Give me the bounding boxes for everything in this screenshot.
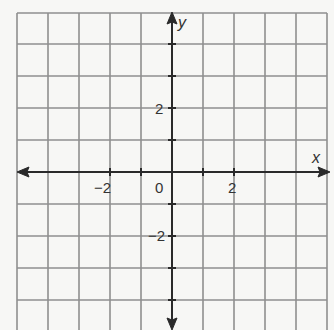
x-axis bbox=[17, 167, 330, 177]
tick-label-y-neg2: −2 bbox=[148, 227, 165, 244]
arrow-left-icon bbox=[17, 167, 29, 177]
arrow-right-icon bbox=[318, 167, 330, 177]
tick-label-x-neg2: −2 bbox=[94, 179, 111, 196]
x-axis-label: x bbox=[311, 149, 321, 166]
arrow-down-icon bbox=[167, 318, 177, 330]
tick-label-x-pos2: 2 bbox=[228, 179, 236, 196]
coordinate-plane: y x −2 0 2 2 −2 bbox=[0, 0, 334, 330]
tick-label-y-pos2: 2 bbox=[155, 100, 163, 117]
y-axis-label: y bbox=[177, 14, 187, 31]
tick-label-origin: 0 bbox=[155, 179, 163, 196]
